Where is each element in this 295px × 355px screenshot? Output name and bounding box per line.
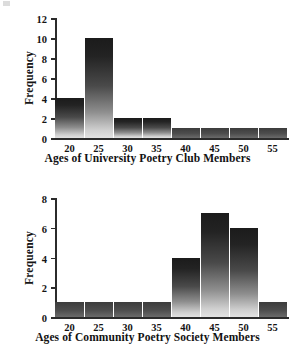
y-axis-tick xyxy=(51,98,55,100)
x-axis-title-bottom: Ages of Community Poetry Society Members xyxy=(0,331,295,343)
histogram-bar xyxy=(258,128,287,138)
histogram-bar xyxy=(229,228,258,317)
x-axis-tick-label: 45 xyxy=(209,322,220,333)
x-axis-tick-label: 20 xyxy=(64,143,75,154)
bar-series-top xyxy=(55,18,287,138)
y-axis-tick xyxy=(51,287,55,289)
histogram-university-poetry-club: Frequency Ages of University Poetry Club… xyxy=(0,0,295,178)
y-axis-tick-label: 0 xyxy=(42,134,47,145)
y-axis-tick-label: 10 xyxy=(37,34,48,45)
plot-area-top: Frequency Ages of University Poetry Club… xyxy=(0,0,295,178)
x-axis-line-top xyxy=(55,138,289,140)
x-axis-title-top: Ages of University Poetry Club Members xyxy=(0,152,295,164)
histogram-bar xyxy=(55,98,84,138)
x-axis-tick-label: 40 xyxy=(180,143,191,154)
plot-area-bottom: Frequency Ages of Community Poetry Socie… xyxy=(0,178,295,355)
x-axis-tick-label: 35 xyxy=(151,322,162,333)
histogram-bar xyxy=(84,302,113,317)
y-axis-tick xyxy=(51,78,55,80)
histogram-bar xyxy=(55,302,84,317)
histogram-bar xyxy=(200,128,229,138)
histogram-bar xyxy=(84,38,113,138)
y-axis-tick-label: 4 xyxy=(42,253,47,264)
y-axis-tick-label: 2 xyxy=(42,283,47,294)
y-axis-tick xyxy=(51,317,55,319)
histogram-bar xyxy=(258,302,287,317)
y-axis-tick-label: 12 xyxy=(37,14,48,25)
x-axis-tick-label: 25 xyxy=(93,143,104,154)
x-axis-tick-label: 50 xyxy=(238,143,249,154)
y-axis-title-top: Frequency xyxy=(23,51,35,105)
x-axis-line-bottom xyxy=(55,317,289,319)
y-axis-tick-label: 8 xyxy=(42,54,47,65)
y-axis-tick-label: 0 xyxy=(42,313,47,324)
x-axis-tick-label: 35 xyxy=(151,143,162,154)
y-axis-tick-label: 4 xyxy=(42,94,47,105)
histogram-bar xyxy=(171,128,200,138)
histogram-community-poetry-society: Frequency Ages of Community Poetry Socie… xyxy=(0,178,295,355)
y-axis-tick xyxy=(51,228,55,230)
y-axis-tick xyxy=(51,198,55,200)
x-axis-tick-label: 45 xyxy=(209,143,220,154)
y-axis-tick-label: 2 xyxy=(42,114,47,125)
y-axis-tick xyxy=(51,38,55,40)
bar-series-bottom xyxy=(55,198,287,317)
y-axis-tick xyxy=(51,18,55,20)
x-axis-tick-label: 55 xyxy=(267,322,278,333)
x-axis-tick-label: 20 xyxy=(64,322,75,333)
x-axis-tick-label: 30 xyxy=(122,143,133,154)
histogram-bar xyxy=(113,118,142,138)
y-axis-tick-label: 6 xyxy=(42,74,47,85)
histogram-bar xyxy=(171,258,200,318)
x-axis-tick-label: 55 xyxy=(267,143,278,154)
histogram-bar xyxy=(142,118,171,138)
x-axis-tick-label: 50 xyxy=(238,322,249,333)
y-axis-tick xyxy=(51,118,55,120)
histogram-bar xyxy=(229,128,258,138)
histogram-bar xyxy=(200,213,229,317)
y-axis-tick-label: 6 xyxy=(42,223,47,234)
y-axis-tick xyxy=(51,58,55,60)
y-axis-title-bottom: Frequency xyxy=(23,231,35,285)
y-axis-tick xyxy=(51,258,55,260)
x-axis-tick-label: 25 xyxy=(93,322,104,333)
histogram-bar xyxy=(142,302,171,317)
y-axis-tick xyxy=(51,138,55,140)
histogram-bar xyxy=(113,302,142,317)
x-axis-tick-label: 40 xyxy=(180,322,191,333)
x-axis-tick-label: 30 xyxy=(122,322,133,333)
y-axis-tick-label: 8 xyxy=(42,194,47,205)
